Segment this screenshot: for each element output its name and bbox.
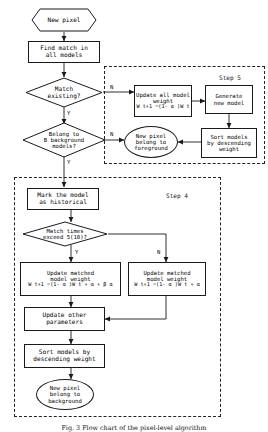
node-update-other-parameters-line2: parameters — [25, 319, 104, 326]
node-update-other-parameters: Update other parameters — [24, 307, 105, 331]
node-sort-models-bottom-line2: descending weight — [25, 356, 104, 363]
node-sort-models-bottom: Sort models by descending weight — [24, 344, 105, 368]
edge-label-match-existing-y: Y — [67, 110, 70, 116]
node-new-pixel: New pixel — [31, 8, 97, 32]
edge-label-match-existing-n: N — [110, 84, 113, 90]
edge-label-belong-b-y: Y — [67, 159, 70, 165]
node-find-match-line2: all models — [29, 52, 99, 59]
node-match-existing: Match existing? — [25, 77, 103, 108]
node-generate-new-model: Generate new model — [205, 85, 253, 114]
node-mark-historical-line2: as historical — [28, 199, 98, 206]
node-update-all-weight: Update all model weight W t+1 =(1- α )W … — [134, 85, 192, 117]
node-sort-models-top-line3: weight — [202, 146, 256, 152]
group-step4-label: Step 4 — [166, 192, 188, 199]
node-generate-new-model-line2: new model — [206, 100, 252, 106]
node-update-matched-yes-formula: W t+1 =(1- α )W t + α + β α — [21, 282, 120, 288]
node-mark-historical: Mark the model as historical — [27, 188, 99, 210]
node-new-pixel-label: New pixel — [31, 17, 97, 24]
node-pixel-foreground-line3: foreground — [125, 145, 177, 151]
node-update-matched-yes: Update matched model weight W t+1 =(1- α… — [20, 262, 121, 296]
flowchart-figure: Step 5 Step 4 — [0, 0, 268, 432]
edge-label-belong-b-n: N — [110, 131, 113, 137]
figure-caption: Fig. 3 Flow chart of the pixel-level alg… — [0, 424, 268, 432]
node-update-matched-no-formula: W t+1 =(1- α )W t + α — [129, 282, 205, 288]
node-belong-b: Belong to B background models? — [22, 122, 106, 158]
group-step5-label: Step 5 — [219, 74, 241, 81]
node-sort-models-top: Sort models by descending weight — [201, 128, 257, 158]
node-match-existing-line2: existing? — [25, 93, 103, 100]
edge-label-match-times-y: Y — [75, 249, 78, 255]
node-belong-b-line3: models? — [22, 143, 106, 149]
node-match-times-line2: exceed 5(10)? — [22, 234, 108, 240]
node-find-match: Find match in all models — [28, 41, 100, 63]
edge-label-match-times-n: N — [157, 249, 160, 255]
node-pixel-foreground: New pixel belong to foreground — [124, 126, 178, 158]
node-update-all-weight-formula: W t+1 =(1- α )W t — [135, 104, 191, 110]
group-step4 — [14, 177, 221, 417]
node-pixel-background: New pixel belong to background — [36, 379, 94, 410]
node-update-matched-no: Update matched model weight W t+1 =(1- α… — [128, 262, 206, 296]
node-pixel-background-line3: background — [37, 398, 93, 404]
node-match-times: Match times exceed 5(10)? — [22, 221, 108, 247]
